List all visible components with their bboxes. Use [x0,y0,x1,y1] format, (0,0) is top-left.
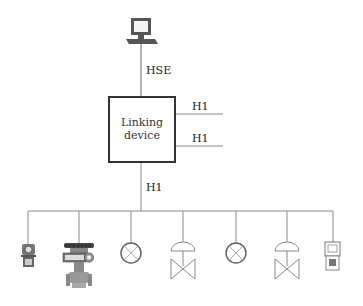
fieldbus-diagram: HSE Linking device H1 H1 H1 [0,0,363,306]
circle-x-instrument-icon [121,243,141,263]
diaphragm-valve-icon [171,242,195,279]
linking-device-label-1: Linking [121,116,163,129]
control-valve-actuator-icon [63,243,94,288]
circle-x-instrument-icon [226,243,246,263]
hse-label: HSE [146,64,171,77]
h1-down-label: H1 [146,181,163,194]
bus-drops [28,211,333,244]
diaphragm-valve-icon [275,242,299,279]
computer-icon [126,18,158,44]
transmitter-icon [21,244,36,267]
handheld-device-icon [325,242,340,270]
h1-right-label-2: H1 [192,132,209,145]
linking-device-label-2: device [124,129,160,142]
h1-right-label-1: H1 [192,100,209,113]
